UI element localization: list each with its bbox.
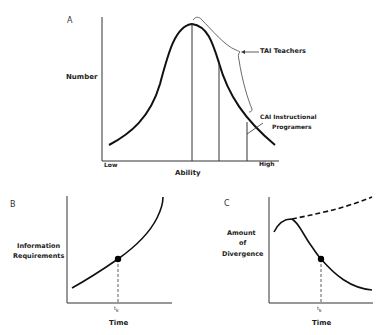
panel-c-dashed-curve (292, 197, 372, 219)
panel-b-curve (72, 197, 163, 288)
panel-a-vertical-markers (192, 24, 247, 161)
panel-a-ylabel: Number (66, 74, 97, 81)
panel-b-tk-label: tk (114, 306, 119, 314)
panel-c-tk-label: tk (317, 306, 322, 314)
panel-a-letter: A (67, 17, 72, 25)
panel-a-cai-label-line1: CAI Instructional (260, 114, 317, 120)
panel-a-cai-label-line2: Programers (272, 124, 312, 130)
panel-b-tk-point (115, 256, 121, 262)
panel-c-tk-point (318, 256, 324, 262)
panel-c-ylabel-line1: Amount (227, 230, 256, 237)
panel-a-teachers-brace (193, 17, 252, 112)
panel-b-ylabel-line2: Requirements (13, 253, 64, 260)
panel-a-teachers-arrow (241, 50, 259, 54)
panel-c-ylabel-line3: Divergence (222, 251, 263, 258)
panel-a-xlabel: Ability (175, 170, 201, 177)
panel-a-x-low: Low (104, 162, 118, 168)
panel-c-xlabel: Time (312, 320, 331, 327)
panel-a-teachers-label: TAI Teachers (260, 48, 306, 55)
panel-b-xlabel: Time (109, 320, 128, 327)
panel-b-axes (67, 196, 172, 303)
panel-c-ylabel-line2: of (239, 240, 246, 247)
panel-a-x-high: High (259, 161, 275, 167)
panel-c-letter: C (224, 200, 230, 208)
figure-canvas (0, 0, 383, 335)
panel-c-solid-curve (274, 219, 372, 290)
panel-a-axes (102, 17, 279, 161)
panel-b-ylabel-line1: Information (17, 243, 60, 250)
panel-b-tk-sub: k (116, 308, 119, 313)
panel-c-tk-sub: k (319, 308, 322, 313)
panel-b-letter: B (10, 201, 16, 209)
